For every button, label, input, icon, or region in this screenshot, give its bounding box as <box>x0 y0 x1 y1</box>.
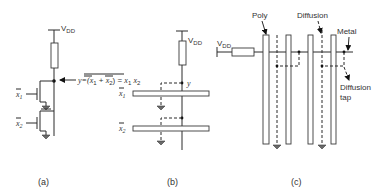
panel-b-stick-diagram: VDD y x1 x2 (b) <box>118 31 209 187</box>
nmos-transistor-2 <box>26 111 54 139</box>
input-x2-label: x2 <box>118 124 126 134</box>
diffusion-contact <box>276 65 279 68</box>
load-resistor <box>232 48 254 56</box>
diffusion-tap-label-1: Diffusion <box>340 83 371 92</box>
poly-arrow <box>262 21 266 34</box>
output-y-label: y <box>186 79 191 88</box>
poly-bar <box>331 35 336 144</box>
diffusion-tap-label-2: tap <box>340 93 352 102</box>
caption-b: (b) <box>167 177 178 187</box>
poly-bar <box>308 35 313 144</box>
output-equation: y=(x1 + x2) = x1 x2 <box>77 76 141 86</box>
diffusion-arrow <box>318 21 321 33</box>
ground-icon <box>273 145 281 149</box>
load-resistor <box>51 43 58 68</box>
poly-bar-x2 <box>133 126 209 131</box>
metal-arrow <box>348 37 349 50</box>
caption-a: (a) <box>38 177 49 187</box>
vdd-label: VDD <box>188 36 203 46</box>
metal-label: Metal <box>337 27 357 36</box>
ground-icon <box>157 106 165 110</box>
input-x1-label: x1 <box>15 90 23 100</box>
poly-bar <box>286 35 291 144</box>
diffusion-tap-arrow <box>344 67 349 80</box>
diffusion-label: Diffusion <box>297 11 328 20</box>
ground-icon <box>318 145 326 149</box>
ground-icon <box>42 135 50 139</box>
poly-label: Poly <box>252 11 268 20</box>
panel-c-layout: VDD Poly Diffusion Metal Diffusion tap (… <box>217 11 371 187</box>
load-resistor <box>179 41 186 65</box>
diffusion-contact <box>321 65 324 68</box>
input-x1-label: x1 <box>118 89 126 99</box>
caption-c: (c) <box>291 177 302 187</box>
nor-gate-layout-diagram: VDD y=(x1 + x2) = x1 x2 x1 <box>0 0 382 196</box>
ground-icon <box>157 141 165 145</box>
nmos-transistor-1 <box>26 81 54 110</box>
input-x2-label: x2 <box>15 119 23 129</box>
vdd-label: VDD <box>217 39 232 49</box>
vdd-label: VDD <box>61 24 76 34</box>
panel-a-circuit-schematic: VDD y=(x1 + x2) = x1 x2 x1 <box>15 24 141 187</box>
poly-bar-x1 <box>133 91 209 96</box>
poly-bar <box>263 35 269 144</box>
